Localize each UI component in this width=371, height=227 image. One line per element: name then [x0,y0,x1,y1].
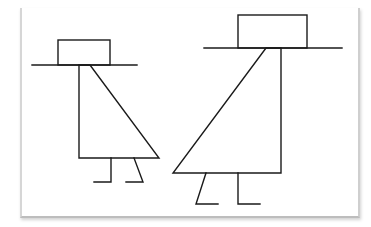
left-figure [32,40,159,182]
drawing-canvas [0,0,371,227]
dress-body [173,48,281,173]
hat-crown [238,15,307,48]
right-figure [173,15,342,204]
leg-1 [94,158,111,182]
leg-2 [238,173,260,204]
leg-2 [126,158,143,182]
leg-1 [196,173,218,204]
dress-body [79,65,159,158]
hat-crown [58,40,110,65]
